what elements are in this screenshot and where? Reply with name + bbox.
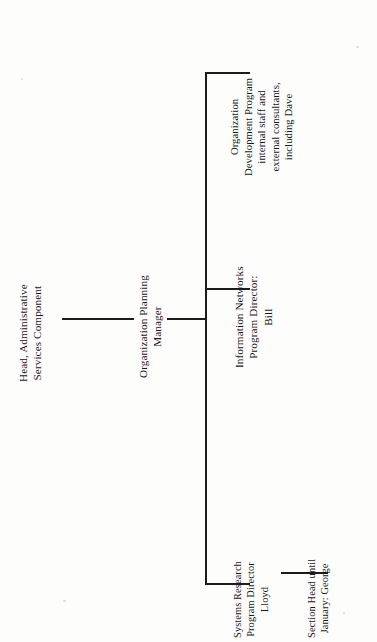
edge-manager-to-trunk [167, 318, 206, 320]
node-manager-line-1: Organization Planning [136, 275, 150, 378]
node-systems-research-line-2: Program Director [244, 561, 257, 638]
edge-trunk-vertical [205, 72, 207, 585]
node-section-head[interactable]: Section Head until January: George [305, 559, 332, 638]
node-section-head-line-2: January: George [318, 559, 331, 638]
node-manager-line-2: Manager [150, 275, 164, 378]
node-org-development-line-4: external consultants, [269, 78, 283, 176]
node-organization-development-program[interactable]: Organization Development Program interna… [228, 78, 296, 176]
node-section-head-line-1: Section Head until [305, 559, 318, 638]
node-root-line-1: Head, Administrative [16, 284, 30, 382]
node-root-line-2: Services Component [30, 284, 44, 382]
node-org-development-line-3: internal staff and [255, 78, 269, 176]
node-systems-research-line-3: Lloyd [258, 561, 271, 638]
scan-speckle [63, 600, 66, 602]
node-systems-research-line-1: Systems Research [231, 561, 244, 638]
node-organization-planning-manager[interactable]: Organization Planning Manager [136, 275, 165, 378]
scan-speckle [343, 612, 345, 614]
node-information-networks-line-3: Bill [261, 266, 275, 368]
edge-trunk-to-org-development [205, 72, 250, 74]
node-org-development-line-5: including Dave [282, 78, 296, 176]
node-org-development-line-1: Organization [228, 78, 242, 176]
scan-speckle [356, 46, 359, 48]
node-head-administrative-services-component[interactable]: Head, Administrative Services Component [16, 284, 45, 382]
node-information-networks-line-1: Information Networks [232, 266, 246, 368]
org-chart-canvas: Head, Administrative Services Component … [0, 0, 377, 642]
edge-root-to-manager [62, 318, 134, 320]
scan-speckle [21, 78, 23, 80]
node-information-networks-line-2: Program Director: [246, 266, 260, 368]
node-org-development-line-2: Development Program [242, 78, 256, 176]
node-systems-research[interactable]: Systems Research Program Director Lloyd [231, 561, 271, 638]
node-information-networks[interactable]: Information Networks Program Director: B… [232, 266, 275, 368]
